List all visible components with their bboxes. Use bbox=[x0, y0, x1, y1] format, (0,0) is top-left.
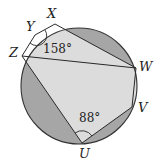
label-w: W bbox=[139, 59, 154, 74]
label-v: V bbox=[138, 100, 149, 115]
angle-label-y: 158° bbox=[43, 42, 72, 56]
label-x: X bbox=[46, 6, 57, 21]
label-u: U bbox=[79, 146, 91, 161]
edge-xy bbox=[35, 24, 55, 35]
angle-label-u: 88° bbox=[79, 111, 100, 125]
label-y: Y bbox=[26, 19, 36, 34]
label-z: Z bbox=[8, 45, 19, 60]
circle-diagram: X Y Z W V U 158° 88° bbox=[0, 0, 159, 162]
